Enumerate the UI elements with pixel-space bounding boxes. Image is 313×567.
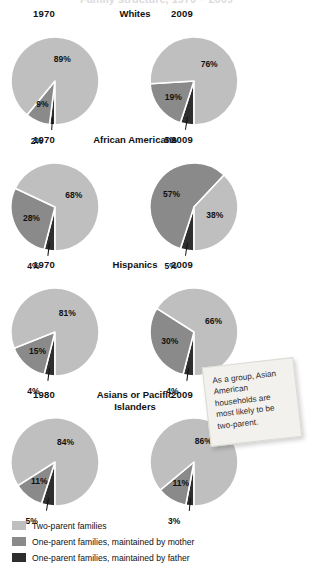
- pie-svg: [8, 285, 102, 379]
- clipped-title: Family structure, 1970 – 2009: [80, 0, 313, 6]
- pie-chart: 5%19%76%: [147, 34, 241, 128]
- pie-row: 1970Whites20092%9%89%5%19%76%: [0, 8, 313, 130]
- legend-swatch-two-parent: [12, 521, 26, 530]
- slice-label-mother: 57%: [163, 189, 180, 199]
- year-label-left: 1970: [33, 8, 55, 19]
- slice-label-mother: 11%: [31, 476, 48, 486]
- legend-item-two-parent: Two-parent families: [12, 518, 302, 533]
- infographic-page: Family structure, 1970 – 2009 1970Whites…: [0, 0, 313, 567]
- pie-chart: 2%9%89%: [8, 34, 102, 128]
- slice-label-mother: 28%: [23, 213, 40, 223]
- year-label-right: 2009: [171, 134, 193, 145]
- legend-label-mother: One-parent families, maintained by mothe…: [32, 537, 194, 547]
- pie-slice-two-parent: [11, 37, 99, 125]
- slice-label-two-parent: 66%: [205, 316, 222, 326]
- slice-label-two-parent: 81%: [59, 308, 76, 318]
- slice-label-mother: 19%: [165, 92, 182, 102]
- legend-item-mother: One-parent families, maintained by mothe…: [12, 534, 302, 549]
- slice-label-two-parent: 84%: [57, 437, 74, 447]
- year-label-left: 1980: [33, 389, 55, 400]
- label-leader-line: [51, 117, 53, 130]
- slice-label-two-parent: 89%: [54, 54, 71, 64]
- slice-label-mother: 9%: [36, 99, 48, 109]
- slice-label-mother: 11%: [172, 478, 189, 488]
- year-label-right: 2009: [171, 389, 193, 400]
- pie-row-header: 1970Hispanics2009: [0, 259, 313, 285]
- legend-label-father: One-parent families, maintained by fathe…: [32, 553, 190, 563]
- pie-svg: [8, 34, 102, 128]
- pie-svg: [147, 34, 241, 128]
- legend-swatch-father: [12, 553, 26, 562]
- year-label-right: 2009: [171, 259, 193, 270]
- slice-label-two-parent: 68%: [65, 190, 82, 200]
- callout-note-text: As a group, Asian American households ar…: [212, 367, 293, 432]
- pie-svg: [147, 160, 241, 254]
- pie-pair: 2%9%89%5%19%76%: [0, 34, 313, 130]
- pie-svg: [8, 415, 102, 509]
- pie-chart: 4%15%81%: [8, 285, 102, 379]
- slice-label-two-parent: 76%: [201, 59, 218, 69]
- pie-row-header: 1970African Americans2009: [0, 134, 313, 160]
- pie-chart: 5%11%84%: [8, 415, 102, 509]
- callout-note: As a group, Asian American households ar…: [202, 357, 302, 447]
- legend-item-father: One-parent families, maintained by fathe…: [12, 550, 302, 565]
- clipped-title-text: Family structure, 1970 – 2009: [80, 0, 313, 5]
- slice-label-two-parent: 38%: [206, 210, 223, 220]
- legend: Two-parent families One-parent families,…: [12, 518, 302, 566]
- pie-row-header: 1970Whites2009: [0, 8, 313, 34]
- pie-svg: [8, 160, 102, 254]
- year-label-left: 1970: [33, 134, 55, 145]
- slice-label-mother: 15%: [29, 346, 46, 356]
- pie-chart: 4%28%68%: [8, 160, 102, 254]
- pie-row: 1970African Americans20094%28%68%5%57%38…: [0, 134, 313, 256]
- pie-chart: 5%57%38%: [147, 160, 241, 254]
- pie-pair: 4%28%68%5%57%38%: [0, 160, 313, 256]
- year-label-left: 1970: [33, 259, 55, 270]
- year-label-right: 2009: [171, 8, 193, 19]
- slice-label-mother: 30%: [161, 336, 178, 346]
- legend-label-two-parent: Two-parent families: [32, 521, 107, 531]
- legend-swatch-mother: [12, 537, 26, 546]
